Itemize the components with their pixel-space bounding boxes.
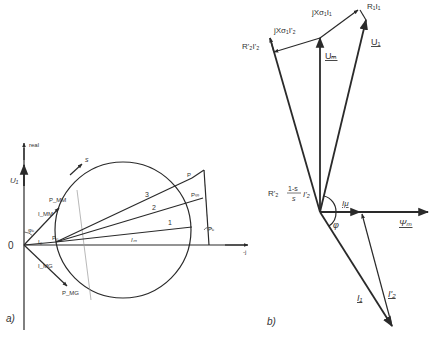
point-p0-label: P₀ (52, 235, 59, 241)
circle-diagram: real U₁ -j 0 s 1 2 3 Iₘ P_MM I_MM φₖ P₀ (6, 142, 248, 330)
phasor-r1i1 (360, 10, 366, 20)
imaginary-axis-label: -j (243, 249, 246, 255)
vertical-to-pk (204, 170, 209, 245)
label-psi-m: Ψₘ (399, 218, 412, 228)
line-3-extension (192, 170, 204, 178)
point-pmg-label: P_MG (62, 290, 79, 296)
label-r2-suffix: I'₂ (303, 190, 310, 199)
phasor-u1 (320, 20, 366, 212)
current-img-label: I_MG (38, 263, 53, 269)
line-2 (56, 198, 203, 242)
panel-b-label: b) (267, 316, 276, 327)
label-r2-num: 1-s (288, 185, 298, 192)
label-r1i1: R₁I₁ (367, 2, 381, 11)
current-i0-label: I₀ (38, 239, 43, 245)
angle-arc-upper (324, 196, 336, 212)
label-i1: I₁ (357, 293, 363, 303)
line-1 (56, 227, 192, 242)
line-1-label: 1 (168, 219, 172, 226)
voltage-label: U₁ (10, 176, 19, 185)
point-pinf-label: P∞ (191, 192, 199, 198)
label-i2: I'₂ (388, 289, 396, 299)
slip-label: s (85, 156, 89, 163)
label-u1: U₁ (371, 37, 381, 47)
phasor-diagram: R₁I₁ jXσ₁I₁ jXσ₁I'₂ R'₂I'₂ Uₘ U₁ R'₂ 1-s… (242, 2, 428, 327)
current-locus-circle (55, 162, 191, 298)
label-jx2i2: jXσ₁I'₂ (273, 26, 296, 35)
label-jx1i1: jXσ₁I₁ (311, 8, 332, 17)
label-r2-den: s (292, 195, 296, 202)
angle-phik-label: φₖ (28, 227, 35, 233)
origin-label: 0 (8, 240, 14, 251)
current-im-label: Iₘ (131, 237, 137, 243)
label-r2i2: R'₂I'₂ (242, 42, 259, 51)
line-3-label: 3 (145, 191, 149, 198)
circle-and-phasor-diagrams: real U₁ -j 0 s 1 2 3 Iₘ P_MM I_MM φₖ P₀ (0, 0, 438, 339)
point-p-label: P (187, 172, 191, 178)
line-2-label: 2 (152, 204, 156, 211)
point-pmm-label: P_MM (49, 197, 66, 203)
label-um: Uₘ (325, 51, 338, 61)
real-axis-label: real (29, 142, 39, 148)
label-imu: Iμ (342, 199, 349, 208)
phasor-jx2i2 (274, 38, 320, 52)
label-r2-prefix: R'₂ (268, 189, 278, 198)
panel-a-label: a) (6, 313, 15, 324)
slip-direction-arrow (70, 164, 82, 175)
current-imm-label: I_MM (38, 211, 53, 217)
phasor-i1 (320, 212, 392, 326)
label-phi: φ (333, 220, 339, 230)
line-3 (56, 178, 192, 242)
phasor-i2 (362, 214, 392, 326)
